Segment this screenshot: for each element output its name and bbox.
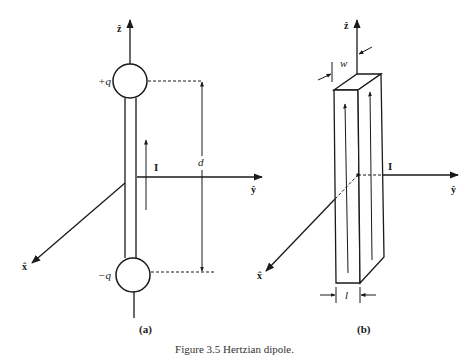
panel-b-label: (b): [357, 323, 371, 336]
panel-b: [266, 20, 458, 303]
x-axis-b: [266, 199, 335, 271]
negative-charge-label: −q: [98, 269, 111, 281]
x-axis-label-a: x̂: [22, 261, 27, 272]
current-label-a: I: [154, 161, 158, 173]
panel-a-label: (a): [139, 323, 152, 336]
x-axis-label-b: x̂: [257, 270, 262, 281]
x-axis-a: [32, 183, 125, 263]
negative-charge-sphere: [116, 258, 150, 292]
length-label: l: [345, 289, 348, 301]
width-label: w: [340, 57, 348, 69]
y-axis-label-a: ŷ: [251, 184, 256, 195]
current-label-b: I: [388, 160, 392, 172]
positive-charge-label: +q: [98, 75, 111, 87]
separation-label: d: [198, 156, 204, 168]
z-axis-label-a: ẑ: [117, 23, 122, 34]
figure-caption: Figure 3.5 Hertzian dipole.: [0, 343, 469, 355]
panel-a: [32, 20, 262, 318]
positive-charge-sphere: [113, 64, 147, 98]
z-axis-label-b: ẑ: [344, 20, 349, 31]
y-axis-label-b: ŷ: [451, 184, 456, 195]
